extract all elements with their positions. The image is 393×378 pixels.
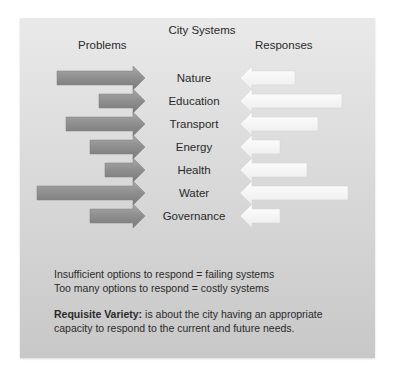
response-arrow-icon (240, 112, 318, 136)
response-arrow-icon (240, 135, 280, 159)
system-label: Nature (148, 71, 240, 85)
note-insufficient: Insufficient options to respond = failin… (54, 267, 274, 281)
response-arrow-icon (240, 204, 280, 228)
response-arrows (240, 66, 348, 228)
problem-arrows (37, 66, 145, 228)
problem-arrow-icon (90, 204, 145, 228)
system-label: Education (148, 94, 240, 108)
system-label: Energy (148, 140, 240, 154)
system-label: Health (148, 163, 240, 177)
problem-arrow-icon (37, 181, 145, 205)
definition-line-2: capacity to respond to the current and f… (54, 321, 295, 335)
system-label: Transport (148, 117, 240, 131)
response-arrow-icon (240, 66, 295, 90)
problem-arrow-icon (105, 158, 145, 182)
response-arrow-icon (240, 181, 348, 205)
problem-arrow-icon (57, 66, 145, 90)
problem-arrow-icon (90, 135, 145, 159)
definition-text: is about the city having an appropriate (142, 308, 322, 320)
response-arrow-icon (240, 158, 307, 182)
response-arrow-icon (240, 89, 342, 113)
problem-arrow-icon (99, 89, 145, 113)
system-label: Governance (148, 209, 240, 223)
system-label: Water (148, 186, 240, 200)
problem-arrow-icon (66, 112, 145, 136)
definition-term: Requisite Variety: (54, 308, 142, 320)
note-too-many: Too many options to respond = costly sys… (54, 281, 269, 295)
definition-line-1: Requisite Variety: is about the city hav… (54, 307, 323, 321)
